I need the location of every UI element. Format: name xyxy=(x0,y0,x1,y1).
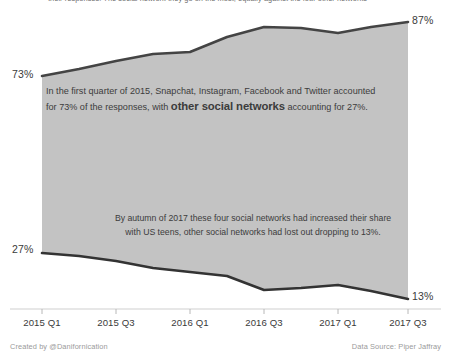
area-chart-plot xyxy=(0,0,451,364)
annotation-autumn-2017: By autumn of 2017 these four social netw… xyxy=(98,211,408,239)
value-label-start-lower: 27% xyxy=(12,243,33,255)
x-axis-label-3: 2016 Q3 xyxy=(229,317,299,328)
footer-credit: Created by @Danifornication xyxy=(10,342,108,351)
footer-data-source: Data Source: Piper Jaffray xyxy=(352,342,441,351)
value-label-end-lower: 13% xyxy=(412,290,433,302)
annotation-first-quarter: In the first quarter of 2015, Snapchat, … xyxy=(46,84,375,115)
x-axis-label-1: 2015 Q3 xyxy=(81,317,151,328)
x-axis-label-0: 2015 Q1 xyxy=(7,317,77,328)
annotation-first-line1: In the first quarter of 2015, Snapchat, … xyxy=(46,84,375,99)
annotation-first-line2-a: for 73% of the responses, with xyxy=(46,102,171,112)
x-axis-label-5: 2017 Q3 xyxy=(373,317,443,328)
value-label-start-upper: 73% xyxy=(12,68,33,80)
annotation-first-line2-b: accounting for 27%. xyxy=(285,102,368,112)
annotation-first-emphasis: other social networks xyxy=(171,100,285,112)
value-label-end-upper: 87% xyxy=(412,14,433,26)
x-axis-label-2: 2016 Q1 xyxy=(155,317,225,328)
annotation-second-line1: By autumn of 2017 these four social netw… xyxy=(98,211,408,225)
annotation-first-line2: for 73% of the responses, with other soc… xyxy=(46,99,375,115)
annotation-second-line2: with US teens, other social networks had… xyxy=(98,225,408,239)
x-axis-label-4: 2017 Q1 xyxy=(303,317,373,328)
chart-page: their responses. The social network they… xyxy=(0,0,451,364)
x-axis-ticks xyxy=(42,309,408,314)
